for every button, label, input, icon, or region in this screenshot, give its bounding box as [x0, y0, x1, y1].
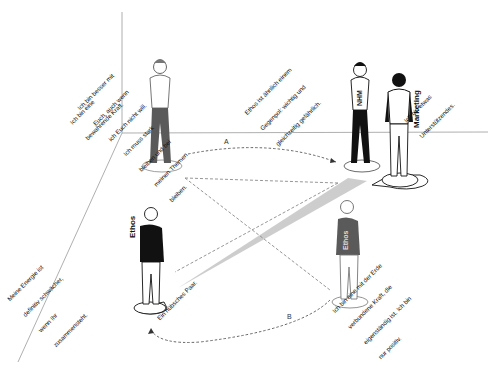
arrow-a-head: [330, 158, 336, 163]
arrow-b-label: B: [287, 313, 292, 320]
figure-nhm-right: [344, 62, 380, 172]
dashed-connections: [175, 178, 338, 290]
ethos-left-label: Ethos: [128, 216, 137, 238]
nhm-left-shirt-label: NHM: [155, 87, 162, 103]
nhm-right-shirt-label: NHM: [356, 90, 363, 106]
arrow-b-head: [148, 328, 154, 334]
arrow-a: [188, 148, 336, 162]
arrow-a-label: A: [224, 138, 229, 145]
ethos-right-shirt-label: Ethos: [342, 231, 349, 250]
